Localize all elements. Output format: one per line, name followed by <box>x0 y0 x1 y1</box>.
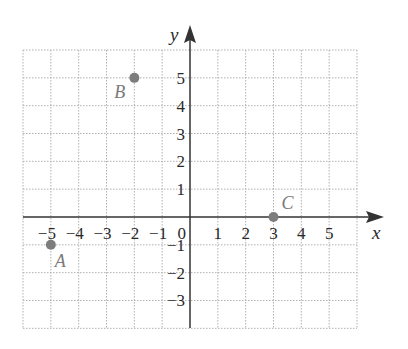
point-label-a: A <box>54 251 67 271</box>
y-tick-label: 2 <box>177 152 186 171</box>
origin-label: 0 <box>178 224 187 243</box>
y-tick-label: 4 <box>177 97 186 116</box>
x-tick-label: 3 <box>269 224 278 243</box>
point-label-b: B <box>114 82 125 102</box>
x-tick-label: 2 <box>241 224 250 243</box>
x-tick-label: −4 <box>66 224 85 243</box>
x-axis-label: x <box>371 222 381 243</box>
axes: x y <box>23 24 384 328</box>
point-c <box>268 212 278 222</box>
x-tick-label: 5 <box>325 224 334 243</box>
y-tick-label: 1 <box>177 180 186 199</box>
x-tick-label: −5 <box>38 224 56 243</box>
y-tick-label: −2 <box>167 264 185 283</box>
point-b <box>129 73 139 83</box>
point-label-c: C <box>281 193 294 213</box>
x-tick-label: −3 <box>93 224 111 243</box>
x-tick-label: −1 <box>149 224 167 243</box>
x-tick-label: 4 <box>297 224 306 243</box>
x-tick-label: 1 <box>214 224 223 243</box>
x-tick-label: −2 <box>121 224 139 243</box>
y-axis-label: y <box>168 24 179 45</box>
coordinate-plane: x y −5−4−3−2−11234554321−1−2−30 ABC <box>0 0 408 349</box>
y-tick-label: 3 <box>177 125 186 144</box>
y-tick-label: −3 <box>167 291 185 310</box>
point-a <box>46 240 56 250</box>
y-tick-label: 5 <box>177 69 186 88</box>
